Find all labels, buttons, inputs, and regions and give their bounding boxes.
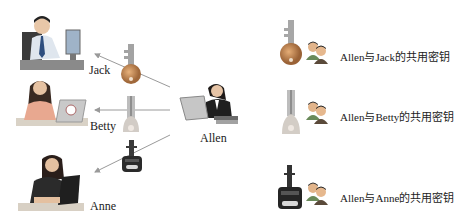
key-anne — [121, 140, 143, 174]
black-car-key-icon — [276, 165, 304, 213]
jack-label: Jack — [89, 63, 110, 78]
legend-label-betty: Allen与Betty的共用密钥 — [340, 108, 454, 124]
legend-item-anne: Allen与Anne的共用密钥 — [270, 165, 469, 213]
anne-label: Anne — [90, 199, 116, 214]
key-jack — [120, 44, 142, 86]
legend: Allen与Jack的共用密钥 Allen与Betty的共用密钥 — [270, 0, 469, 224]
anne-figure — [18, 153, 84, 211]
jack-figure — [20, 14, 84, 70]
users-pair-icon — [304, 40, 330, 64]
person-with-laptop-icon — [178, 82, 240, 126]
person-with-laptop-icon — [18, 153, 84, 211]
betty-label: Betty — [90, 119, 116, 134]
legend-item-betty: Allen与Betty的共用密钥 — [270, 90, 469, 138]
black-car-key-icon — [121, 140, 143, 174]
legend-label-anne: Allen与Anne的共用密钥 — [340, 189, 454, 205]
allen-label: Allen — [200, 131, 227, 146]
person-with-laptop-icon — [16, 78, 88, 126]
silver-bell-key-icon — [121, 96, 141, 136]
silver-bell-key-icon — [280, 90, 302, 138]
users-pair-icon — [304, 100, 330, 124]
users-pair-icon — [304, 181, 330, 205]
bronze-round-key-icon — [120, 44, 142, 86]
legend-label-jack: Allen与Jack的共用密钥 — [340, 48, 450, 64]
betty-figure — [16, 78, 88, 126]
legend-item-jack: Allen与Jack的共用密钥 — [270, 20, 469, 66]
key-betty — [121, 96, 141, 136]
bronze-round-key-icon — [278, 20, 302, 66]
allen-figure — [178, 82, 240, 126]
person-at-desktop-icon — [20, 14, 84, 70]
